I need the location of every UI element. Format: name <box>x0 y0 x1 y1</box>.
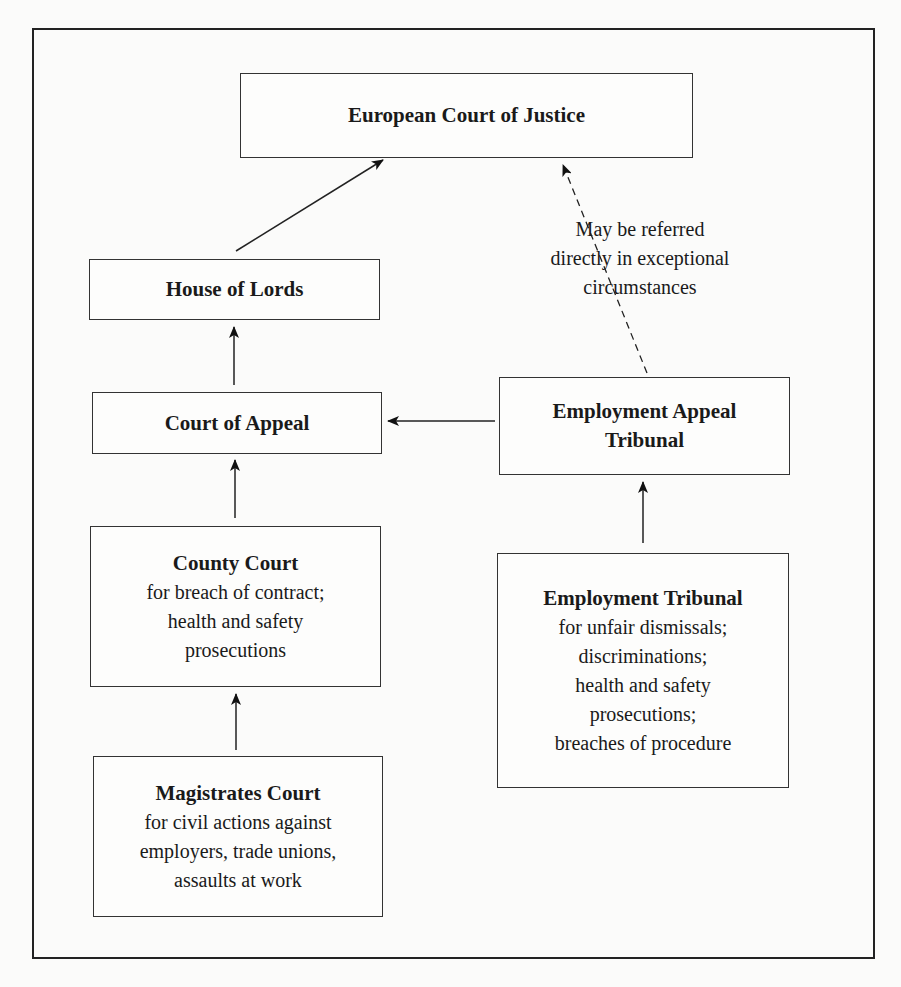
node-house-of-lords: House of Lords <box>89 259 380 320</box>
node-desc-line: breaches of procedure <box>555 729 732 758</box>
node-title: Court of Appeal <box>165 409 310 438</box>
node-title: Employment Tribunal <box>543 584 742 613</box>
node-title-line2: Tribunal <box>605 426 684 455</box>
note-line: May be referred <box>500 215 780 244</box>
note-line: circumstances <box>500 273 780 302</box>
node-desc-line: prosecutions; <box>590 700 697 729</box>
node-employment-appeal-tribunal: Employment Appeal Tribunal <box>499 377 790 475</box>
node-desc-line: assaults at work <box>174 866 302 895</box>
node-desc-line: prosecutions <box>185 636 286 665</box>
node-european-court-of-justice: European Court of Justice <box>240 73 693 158</box>
node-desc-line: for unfair dismissals; <box>559 613 728 642</box>
arrow-hol-to-ecj <box>236 160 383 251</box>
node-desc-line: health and safety <box>168 607 304 636</box>
node-title: European Court of Justice <box>348 101 585 130</box>
node-desc-line: employers, trade unions, <box>140 837 337 866</box>
node-court-of-appeal: Court of Appeal <box>92 392 382 454</box>
referral-note: May be referred directly in exceptional … <box>500 215 780 302</box>
node-title: Magistrates Court <box>155 779 320 808</box>
node-title-line1: Employment Appeal <box>553 397 737 426</box>
node-title: House of Lords <box>166 275 304 304</box>
node-desc-line: discriminations; <box>579 642 708 671</box>
node-desc-line: for breach of contract; <box>146 578 324 607</box>
node-title: County Court <box>173 549 298 578</box>
node-county-court: County Court for breach of contract; hea… <box>90 526 381 687</box>
node-employment-tribunal: Employment Tribunal for unfair dismissal… <box>497 553 789 788</box>
node-magistrates-court: Magistrates Court for civil actions agai… <box>93 756 383 917</box>
node-desc-line: health and safety <box>575 671 711 700</box>
node-desc-line: for civil actions against <box>144 808 331 837</box>
note-line: directly in exceptional <box>500 244 780 273</box>
